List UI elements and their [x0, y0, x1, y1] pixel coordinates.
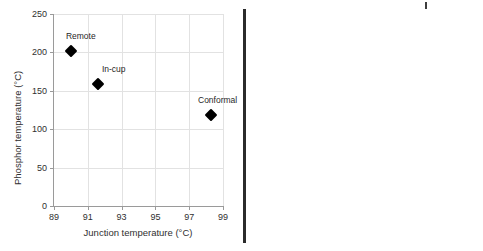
data-point-marker — [65, 44, 78, 57]
data-point-label: In-cup — [102, 64, 126, 74]
panel-divider — [243, 9, 246, 243]
page-edge-mark-icon — [425, 2, 427, 9]
y-tick — [50, 206, 54, 207]
gridline-horizontal — [54, 91, 223, 92]
gridline-vertical — [122, 14, 123, 206]
y-axis-title-left: Phosphor temperature (°C) — [12, 71, 23, 185]
x-tick — [155, 206, 156, 210]
x-tick — [223, 206, 224, 210]
y-tick — [50, 91, 54, 92]
data-point-label: Remote — [66, 31, 96, 41]
y-tick — [50, 129, 54, 130]
x-tick-label: 89 — [49, 212, 59, 222]
x-tick — [122, 206, 123, 210]
y-tick — [50, 52, 54, 53]
x-tick-label: 93 — [117, 212, 127, 222]
gridline-horizontal — [54, 52, 223, 53]
data-point-label: Conformal — [198, 95, 237, 105]
x-tick-label: 97 — [184, 212, 194, 222]
y-tick-label: 0 — [42, 201, 47, 211]
data-point-marker — [205, 108, 218, 121]
x-axis-title-left: Junction temperature (°C) — [53, 227, 223, 238]
x-tick — [88, 206, 89, 210]
gridline-horizontal — [54, 14, 223, 15]
y-tick — [50, 168, 54, 169]
y-tick — [50, 14, 54, 15]
x-tick-label: 95 — [150, 212, 160, 222]
data-point-marker — [92, 78, 105, 91]
gridline-vertical — [88, 14, 89, 206]
x-tick — [189, 206, 190, 210]
plot-area-left: 899193959799050100150200250RemoteIn-cupC… — [53, 14, 223, 207]
y-tick-label: 250 — [32, 9, 47, 19]
gridline-horizontal — [54, 168, 223, 169]
chart-panel-left: 899193959799050100150200250RemoteIn-cupC… — [0, 0, 242, 251]
gridline-horizontal — [54, 129, 223, 130]
y-tick-label: 150 — [32, 86, 47, 96]
gridline-vertical — [155, 14, 156, 206]
x-tick-label: 99 — [218, 212, 228, 222]
figure-two-panel-scatter: 899193959799050100150200250RemoteIn-cupC… — [0, 0, 483, 251]
y-tick-label: 200 — [32, 47, 47, 57]
y-tick-label: 50 — [37, 163, 47, 173]
gridline-vertical — [189, 14, 190, 206]
gridline-vertical — [223, 14, 224, 206]
chart-panel-right: 8991939597990510152025RemoteIn-cupConfor… — [242, 0, 483, 251]
x-tick — [54, 206, 55, 210]
x-tick-label: 91 — [83, 212, 93, 222]
y-tick-label: 100 — [32, 124, 47, 134]
